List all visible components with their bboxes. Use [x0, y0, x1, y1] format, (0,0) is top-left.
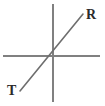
diagram-canvas: R T	[0, 0, 105, 106]
point-label-T: T	[7, 84, 16, 98]
point-label-R: R	[86, 8, 96, 22]
diagonal-ray-TR	[20, 14, 83, 91]
